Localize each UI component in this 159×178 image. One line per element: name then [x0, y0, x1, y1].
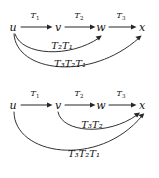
node-x: x — [139, 22, 145, 33]
arrow-u-to-v — [21, 25, 53, 30]
composition-diagram-figure: u v w x T1 T2 T3 T₂T₁ T₃T₂T₁ — [0, 0, 159, 178]
curve-label-t3t2t1: T₃T₂T₁ — [68, 149, 100, 159]
arrow-u-to-v — [21, 103, 53, 108]
node-v: v — [55, 100, 61, 111]
arrow-label-t1: T1 — [31, 12, 40, 20]
arrow-v-to-w — [65, 103, 96, 108]
node-u: u — [9, 22, 16, 33]
node-x: x — [139, 100, 145, 111]
arrow-w-to-x — [109, 25, 137, 30]
arrow-label-t1: T1 — [31, 90, 40, 98]
node-v: v — [55, 22, 61, 33]
arrow-label-t3: T3 — [117, 12, 126, 20]
curve-label-t2t1: T₂T₁ — [51, 41, 72, 51]
arrow-w-to-x — [109, 103, 137, 108]
curve-label-t3t2t1: T₃T₂T₁ — [54, 59, 86, 69]
curve-u-to-x — [14, 112, 144, 150]
node-w: w — [96, 22, 105, 33]
arrow-label-t2: T2 — [75, 12, 84, 20]
node-w: w — [96, 100, 105, 111]
node-u: u — [9, 100, 16, 111]
diagram-bottom: u v w x T1 T2 T3 T₃T₂ T₃T₂T₁ — [0, 89, 159, 178]
diagram-bottom-graphics — [0, 89, 159, 178]
curve-label-t3t2: T₃T₂ — [81, 120, 102, 130]
arrow-label-t3: T3 — [117, 90, 126, 98]
arrow-v-to-w — [65, 25, 96, 30]
diagram-top: u v w x T1 T2 T3 T₂T₁ T₃T₂T₁ — [0, 0, 159, 89]
arrow-label-t2: T2 — [75, 90, 84, 98]
